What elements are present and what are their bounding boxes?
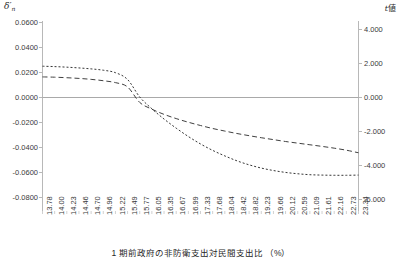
x-axis-tick-label: 17.33 (204, 196, 212, 215)
x-axis-title: 1 期前政府の非防衛支出対民間支出比 （%） (0, 246, 402, 258)
x-axis-tick-label: 14.70 (94, 196, 102, 215)
x-axis-tick-label: 21.09 (313, 196, 321, 215)
x-axis-tick-label: 21.61 (325, 196, 333, 215)
x-axis-tick-label: 15.77 (143, 196, 151, 215)
x-axis-tick-label: 17.68 (216, 196, 224, 215)
x-axis-tick-label: 22.73 (350, 196, 358, 215)
x-axis-tick-label: 18.04 (228, 196, 236, 215)
x-axis-tick-label: 15.49 (131, 196, 139, 215)
x-axis-tick-label: 20.59 (301, 196, 309, 215)
x-axis-tick-label: 14.96 (106, 196, 114, 215)
right-axis-ticks (359, 30, 363, 200)
series-line-t-value (43, 66, 359, 175)
x-axis-tick-label: 14.46 (82, 196, 90, 215)
chart-figure: δ′n t値 0.0600 0.0400 0.0200 0.0000 -0.02… (0, 0, 402, 268)
x-axis-tick-label: 22.16 (337, 196, 345, 215)
x-axis-tick-label: 14.23 (70, 196, 78, 215)
x-axis-tick-label: 16.99 (192, 196, 200, 215)
x-axis-tick-label: 16.05 (155, 196, 163, 215)
x-axis-tick-label: 15.22 (119, 196, 127, 215)
series-line-delta-n (43, 77, 359, 153)
x-axis-tick-label: 23.34 (362, 196, 370, 215)
left-axis-ticks (39, 23, 43, 198)
x-axis-tick-label: 16.67 (179, 196, 187, 215)
x-axis-tick-label: 20.12 (289, 196, 297, 215)
plot-area (0, 0, 402, 268)
legend (0, 261, 402, 268)
x-axis-tick-label: 18.42 (240, 196, 248, 215)
x-axis-tick-label: 19.66 (277, 196, 285, 215)
x-axis-tick-label: 14.00 (58, 196, 66, 215)
x-axis-tick-label: 13.78 (46, 196, 54, 215)
x-axis-tick-label: 16.35 (167, 196, 175, 215)
x-axis-tick-label: 18.82 (252, 196, 260, 215)
x-axis-tick-label: 19.23 (264, 196, 272, 215)
